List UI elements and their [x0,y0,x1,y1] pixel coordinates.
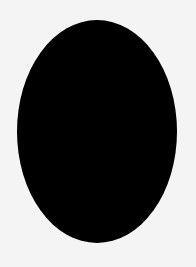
image-canvas [0,0,196,267]
black-ellipse [17,20,177,243]
